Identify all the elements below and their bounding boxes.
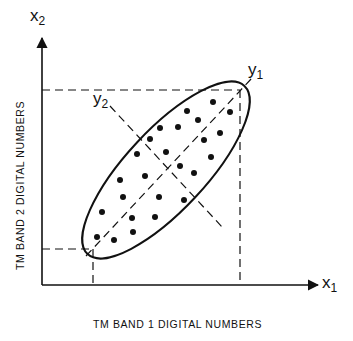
data-point: [184, 108, 190, 114]
data-point: [208, 154, 214, 160]
data-point: [157, 125, 163, 131]
data-point: [94, 234, 100, 240]
scatter-diagram: [0, 0, 353, 341]
data-point: [191, 170, 197, 176]
y1-axis-label: y1: [248, 60, 263, 82]
data-point: [142, 173, 148, 179]
data-point: [117, 177, 123, 183]
data-point: [201, 137, 207, 143]
data-point: [99, 209, 105, 215]
data-point: [227, 109, 233, 115]
data-point: [134, 151, 140, 157]
x2-axis-label: x2: [30, 6, 45, 28]
y2-principal-axis: [110, 106, 223, 228]
data-point: [163, 149, 169, 155]
data-point: [130, 229, 136, 235]
x-axis-caption: TM BAND 1 DIGITAL NUMBERS: [93, 318, 262, 330]
data-point: [120, 194, 126, 200]
data-point: [156, 194, 162, 200]
data-point: [181, 197, 187, 203]
data-point: [129, 215, 135, 221]
data-point: [152, 214, 158, 220]
data-point: [195, 117, 201, 123]
y1-principal-axis: [86, 78, 252, 256]
x1-axis-label: x1: [322, 273, 337, 295]
y2-axis-label: y2: [93, 89, 108, 111]
data-point: [210, 99, 216, 105]
data-point: [111, 237, 117, 243]
data-point: [147, 136, 153, 142]
data-point: [177, 163, 183, 169]
data-point: [175, 124, 181, 130]
y-axis-caption: TM BAND 2 DIGITAL NUMBERS: [14, 101, 26, 270]
data-point: [217, 130, 223, 136]
